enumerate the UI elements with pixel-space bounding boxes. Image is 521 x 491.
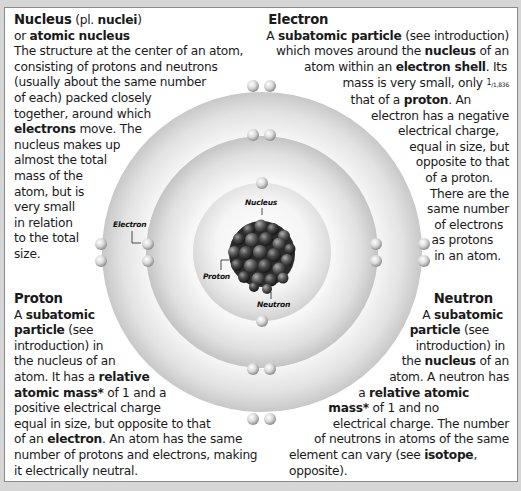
electron-heading: Electron — [268, 12, 328, 27]
proton-heading: Proton — [14, 291, 63, 306]
nucleus-heading: Nucleus — [14, 12, 72, 27]
electron-definition: Electron A subatomic particle (see intro… — [266, 12, 509, 265]
neutron-definition: Neutron A subatomic particle (see introd… — [289, 291, 509, 479]
proton-definition: Proton A subatomic particle (see introdu… — [14, 291, 257, 479]
label-neutron: Neutron — [257, 300, 290, 309]
label-proton: Proton — [203, 272, 230, 281]
nucleus-definition: Nucleus (pl. nuclei) or atomic nucleus T… — [14, 12, 243, 263]
diagram-panel: Electron Nucleus Proton Neutron Nucleus … — [4, 7, 518, 482]
neutron-heading: Neutron — [434, 291, 493, 306]
atomic-nucleus-term: atomic nucleus — [30, 29, 130, 43]
nuclei-term: nuclei — [98, 13, 138, 27]
electrons-term: electrons — [14, 122, 76, 136]
